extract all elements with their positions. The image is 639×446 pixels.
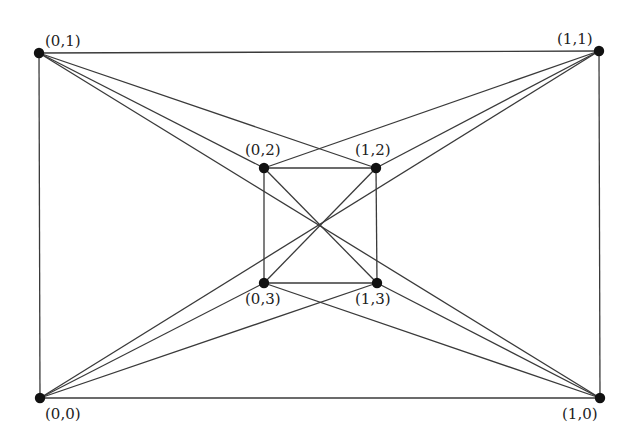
vertex-0-3 <box>259 278 269 288</box>
edges-group <box>39 51 600 398</box>
vertex-label-0-1: (0,1) <box>45 32 81 50</box>
edge-1-1-to-0-2 <box>264 51 599 168</box>
vertex-0-0 <box>35 393 45 403</box>
vertex-1-1 <box>594 46 604 56</box>
edge-0-1-to-1-1 <box>39 51 599 53</box>
edge-1-0-to-1-3 <box>377 283 600 398</box>
vertex-label-0-0: (0,0) <box>45 405 81 423</box>
vertex-0-2 <box>259 163 269 173</box>
vertex-label-1-0: (1,0) <box>562 405 598 423</box>
edge-1-1-to-1-2 <box>376 51 599 168</box>
vertex-label-1-3: (1,3) <box>355 290 391 308</box>
edge-0-1-to-1-2 <box>39 53 376 168</box>
edge-0-1-to-0-2 <box>39 53 264 168</box>
vertex-1-3 <box>372 278 382 288</box>
vertex-label-1-1: (1,1) <box>557 30 593 48</box>
graph-diagram: (0,1)(1,1)(0,0)(1,0)(0,2)(1,2)(0,3)(1,3) <box>0 0 639 446</box>
vertex-1-0 <box>595 393 605 403</box>
vertex-label-0-3: (0,3) <box>245 290 281 308</box>
edge-0-1-to-0-0 <box>39 53 40 398</box>
vertex-0-1 <box>34 48 44 58</box>
vertex-label-1-2: (1,2) <box>355 141 391 159</box>
vertex-1-2 <box>371 163 381 173</box>
edge-1-0-to-0-3 <box>264 283 600 398</box>
edge-1-1-to-1-0 <box>599 51 600 398</box>
edge-0-0-to-1-3 <box>40 283 377 398</box>
edge-1-2-to-1-3 <box>376 168 377 283</box>
vertex-label-0-2: (0,2) <box>245 141 281 159</box>
edge-0-0-to-0-3 <box>40 283 264 398</box>
